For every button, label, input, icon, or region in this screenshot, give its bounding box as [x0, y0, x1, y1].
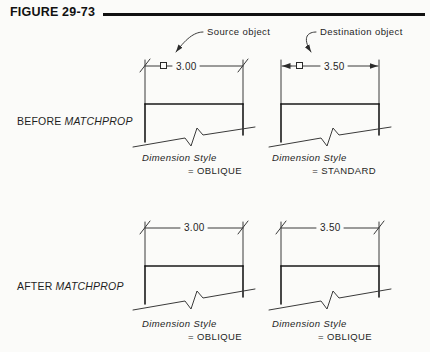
object-ground-break-line [133, 127, 255, 147]
panel-before-left [133, 32, 255, 147]
figure-linework [0, 0, 430, 352]
leader-line-destination [306, 32, 316, 52]
panel-after-right [269, 221, 391, 310]
object-ground-break-line [133, 289, 255, 310]
figure-page: FIGURE 29-73 BEFORE MATCHPROP AFTER MATC… [0, 0, 430, 352]
grip-square-source[interactable] [161, 63, 167, 69]
panel-after-left [133, 221, 255, 310]
object-ground-break-line [269, 289, 391, 310]
grip-square-destination[interactable] [297, 63, 303, 69]
object-ground-break-line [269, 127, 391, 147]
panel-before-right [269, 32, 391, 147]
leader-line-source [176, 32, 203, 52]
